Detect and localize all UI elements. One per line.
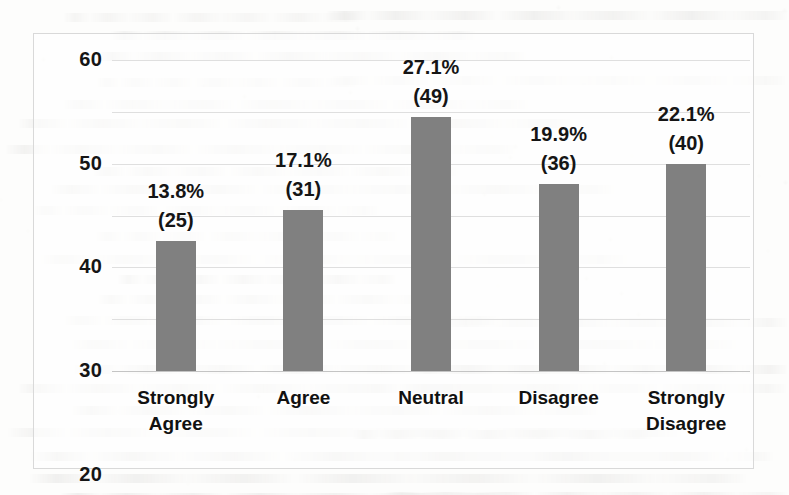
bar-count-label: (49) (403, 82, 460, 111)
plot-area: 010203040506013.8%(25)StronglyAgree17.1%… (112, 60, 750, 371)
paper-speck (182, 16, 183, 17)
bar-percent-label: 17.1% (275, 146, 332, 175)
bar-percent-label: 22.1% (658, 100, 715, 129)
bar-count-label: (31) (275, 175, 332, 204)
x-axis-category-label: StronglyDisagree (611, 385, 761, 436)
paper-speck (595, 1, 596, 2)
bar-value-label: 22.1%(40) (658, 100, 715, 158)
bar-percent-label: 13.8% (147, 177, 204, 206)
bar-group: 17.1%(31)Agree (240, 210, 368, 371)
bar-percent-label: 19.9% (530, 120, 587, 149)
bar[interactable] (411, 117, 451, 371)
bar-value-label: 13.8%(25) (147, 177, 204, 235)
bleedthrough-text-line (326, 11, 789, 20)
paper-speck (187, 483, 189, 485)
bar[interactable] (666, 164, 706, 371)
y-axis-tick-label: 60 (79, 48, 102, 71)
bar[interactable] (156, 241, 196, 371)
chart-frame: 010203040506013.8%(25)StronglyAgree17.1%… (33, 33, 754, 469)
bar-group: 27.1%(49)Neutral (367, 117, 495, 371)
bar-value-label: 19.9%(36) (530, 120, 587, 178)
paper-speck (557, 6, 560, 9)
bar-count-label: (40) (658, 129, 715, 158)
paper-speck (27, 230, 29, 232)
paper-speck (758, 175, 760, 177)
bar[interactable] (539, 184, 579, 371)
bar-value-label: 17.1%(31) (275, 146, 332, 204)
paper-speck (0, 199, 2, 201)
y-axis-tick-label: 50 (79, 152, 102, 175)
bar-count-label: (25) (147, 206, 204, 235)
x-axis-line: 0 (112, 371, 750, 372)
y-axis-tick-label: 30 (79, 359, 102, 382)
bar-percent-label: 27.1% (403, 53, 460, 82)
paper-speck (784, 181, 787, 184)
bar-count-label: (36) (530, 149, 587, 178)
bleedthrough-text-line (28, 474, 749, 483)
gridline: 50 (112, 112, 750, 113)
category-label-line: Disagree (611, 411, 761, 437)
paper-speck (767, 250, 769, 252)
bar-group: 19.9%(36)Disagree (495, 184, 623, 371)
paper-speck (481, 478, 482, 479)
bleedthrough-text-line (63, 13, 361, 22)
bar-group: 22.1%(40)StronglyDisagree (622, 164, 750, 371)
bar-group: 13.8%(25)StronglyAgree (112, 241, 240, 371)
y-axis-tick-label: 40 (79, 255, 102, 278)
bar-value-label: 27.1%(49) (403, 53, 460, 111)
y-axis-tick-label: 20 (79, 463, 102, 486)
bar[interactable] (283, 210, 323, 371)
scanned-page-background: 010203040506013.8%(25)StronglyAgree17.1%… (0, 0, 789, 495)
paper-speck (783, 9, 786, 12)
paper-speck (356, 27, 359, 30)
category-label-line: Agree (101, 411, 251, 437)
category-label-line: Strongly (611, 385, 761, 411)
